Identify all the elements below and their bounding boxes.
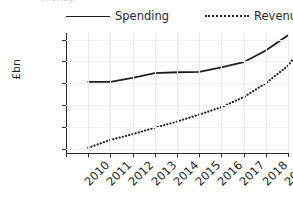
x-tick-mark bbox=[66, 153, 67, 157]
gridline-vertical bbox=[288, 33, 289, 153]
x-tick-mark bbox=[199, 153, 200, 157]
chart-legend: Spending Revenue bbox=[66, 8, 293, 24]
y-tick-mark bbox=[62, 105, 66, 106]
y-tick-mark bbox=[62, 83, 66, 84]
x-tick-mark bbox=[88, 153, 89, 157]
x-tick-mark bbox=[133, 153, 134, 157]
y-tick-mark bbox=[62, 40, 66, 41]
y-tick-mark bbox=[62, 149, 66, 150]
x-tick-mark bbox=[177, 153, 178, 157]
series-line-revenue bbox=[88, 37, 293, 148]
x-tick-mark bbox=[110, 153, 111, 157]
gridline-vertical bbox=[266, 33, 267, 153]
gridline-vertical bbox=[244, 33, 245, 153]
x-tick-mark bbox=[221, 153, 222, 157]
y-tick-mark bbox=[62, 127, 66, 128]
y-axis-title: £bn bbox=[10, 59, 23, 80]
series-line-spending bbox=[88, 35, 288, 82]
gridline-vertical bbox=[88, 33, 89, 153]
gridline-vertical bbox=[199, 33, 200, 153]
legend-item-revenue[interactable]: Revenue bbox=[205, 9, 293, 23]
legend-item-spending[interactable]: Spending bbox=[66, 9, 169, 23]
legend-swatch-dotted-line-icon bbox=[205, 15, 249, 17]
plot-area bbox=[66, 33, 288, 153]
x-tick-mark bbox=[244, 153, 245, 157]
gridline-vertical bbox=[177, 33, 178, 153]
gridline-vertical bbox=[110, 33, 111, 153]
x-tick-label: 2012 bbox=[126, 158, 157, 189]
x-tick-mark bbox=[155, 153, 156, 157]
x-tick-mark bbox=[288, 153, 289, 157]
y-tick-mark bbox=[62, 61, 66, 62]
legend-swatch-solid-line-icon bbox=[66, 16, 110, 17]
legend-label-revenue: Revenue bbox=[254, 9, 293, 23]
x-tick-label: 2017 bbox=[237, 158, 268, 189]
x-tick-mark bbox=[266, 153, 267, 157]
chart-title-fragment: money. bbox=[42, 0, 76, 3]
legend-label-spending: Spending bbox=[115, 9, 169, 23]
gridline-vertical bbox=[155, 33, 156, 153]
gridline-vertical bbox=[133, 33, 134, 153]
line-chart: money. Spending Revenue £bn 550600650700… bbox=[0, 0, 293, 198]
gridline-vertical bbox=[221, 33, 222, 153]
